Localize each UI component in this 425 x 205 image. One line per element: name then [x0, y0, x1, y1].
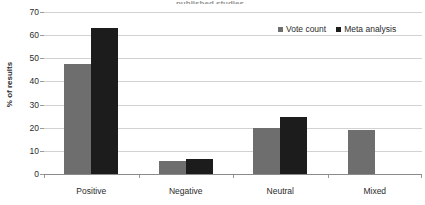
bar-group: Negative [139, 12, 234, 174]
legend-item-meta-analysis[interactable]: Meta analysis [336, 24, 396, 34]
x-axis-line [44, 174, 422, 175]
bar-group: Positive [44, 12, 139, 174]
bar-group: Neutral [233, 12, 328, 174]
y-axis-label: 20 [0, 124, 39, 133]
bar-neutral-meta-analysis[interactable] [280, 117, 307, 174]
y-axis-label: 50 [0, 54, 39, 63]
bar-positive-vote-count[interactable] [64, 64, 91, 174]
x-axis-label-negative: Negative [139, 186, 234, 196]
x-axis-label-neutral: Neutral [233, 186, 328, 196]
bar-negative-meta-analysis[interactable] [186, 159, 213, 174]
legend-label: Vote count [286, 24, 326, 34]
y-axis-label: 0 [0, 170, 39, 179]
chart-title-cropped: published studies [150, 0, 270, 4]
bar-groups: PositiveNegativeNeutralMixed [44, 12, 422, 174]
bar-mixed-vote-count[interactable] [348, 130, 375, 174]
x-axis-label-mixed: Mixed [328, 186, 423, 196]
bar-negative-vote-count[interactable] [159, 161, 186, 174]
legend-swatch-icon [278, 27, 283, 32]
plot-area: 706050403020100 PositiveNegativeNeutralM… [44, 12, 422, 174]
y-axis-label: 10 [0, 147, 39, 156]
legend-item-vote-count[interactable]: Vote count [278, 24, 326, 34]
legend-swatch-icon [336, 27, 341, 32]
bar-chart: published studies % of results 706050403… [0, 0, 425, 205]
bar-positive-meta-analysis[interactable] [91, 28, 118, 174]
bar-neutral-vote-count[interactable] [253, 128, 280, 174]
bar-group: Mixed [328, 12, 423, 174]
x-axis-label-positive: Positive [44, 186, 139, 196]
y-axis-label: 40 [0, 77, 39, 86]
y-axis-label: 70 [0, 8, 39, 17]
y-axis-label: 60 [0, 31, 39, 40]
legend-label: Meta analysis [344, 24, 396, 34]
chart-legend: Vote countMeta analysis [278, 24, 396, 34]
y-axis-label: 30 [0, 101, 39, 110]
